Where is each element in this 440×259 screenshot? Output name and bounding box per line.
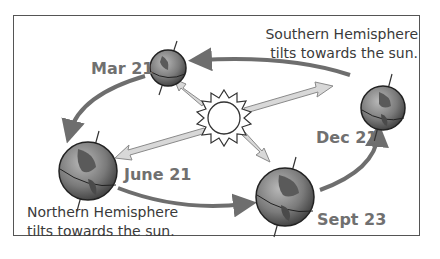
earth-sept-icon (256, 157, 314, 237)
earth-june-icon (59, 131, 117, 211)
caption-southern-line1: Southern Hemisphere (265, 26, 418, 42)
date-label-june: June 21 (123, 165, 191, 184)
caption-southern-line2: tilts towards the sun. (270, 45, 418, 61)
ray-arrow-to-june (115, 128, 206, 160)
caption-northern-line2: tilts towards the sun. (27, 223, 175, 239)
ray-arrow-to-dec (244, 82, 333, 113)
caption-northern: Northern Hemisphere tilts towards the su… (27, 204, 178, 239)
date-label-mar: Mar 21 (91, 59, 153, 78)
orbit-arrow-dec-to-mar (200, 59, 350, 75)
caption-northern-line1: Northern Hemisphere (27, 204, 178, 220)
date-label-sept: Sept 23 (317, 210, 386, 229)
date-label-dec: Dec 21 (316, 128, 377, 147)
sun-icon (197, 90, 251, 146)
orbit-arrow-mar-to-june (70, 76, 145, 132)
caption-southern: Southern Hemisphere tilts towards the su… (265, 26, 418, 61)
seasons-diagram: Mar 21 June 21 Sept 23 Dec 21 Southern H… (0, 0, 440, 259)
